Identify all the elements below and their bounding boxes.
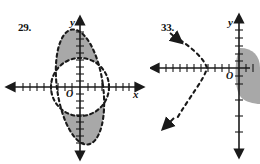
figure-29: 29. — [0, 0, 150, 164]
shaded-lens-caps — [0, 0, 150, 164]
origin-label-33: O — [226, 70, 233, 81]
parabola-curve — [174, 36, 207, 120]
y-axis-label-29: y — [70, 16, 75, 28]
shaded-region-group-29 — [0, 0, 150, 164]
origin-label-29: O — [66, 88, 73, 99]
x-axis-label-29: x — [133, 88, 139, 100]
figure-33: 33. — [150, 0, 260, 164]
parabola-arrow-lower — [168, 118, 174, 124]
y-axis-label-33: y — [228, 16, 233, 28]
figure-33-plot — [150, 0, 260, 164]
figure-29-plot — [0, 0, 150, 164]
